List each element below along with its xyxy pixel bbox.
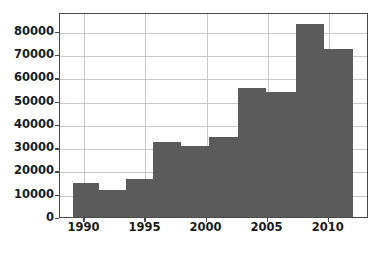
bar bbox=[153, 142, 181, 217]
y-tick-label: 20000 bbox=[14, 166, 54, 178]
bar bbox=[324, 49, 353, 217]
y-tick-mark bbox=[55, 78, 59, 79]
y-tick-label: 0 bbox=[46, 212, 54, 224]
bar bbox=[126, 179, 153, 217]
x-tick-mark bbox=[144, 218, 145, 222]
y-tick-label: 10000 bbox=[14, 189, 54, 201]
y-tick-label: 40000 bbox=[14, 119, 54, 131]
plot-area bbox=[59, 13, 368, 218]
y-tick-mark bbox=[55, 171, 59, 172]
bar bbox=[73, 183, 99, 217]
y-tick-label: 50000 bbox=[14, 96, 54, 108]
y-tick-mark bbox=[55, 125, 59, 126]
y-tick-mark bbox=[55, 195, 59, 196]
y-tick-label: 80000 bbox=[14, 26, 54, 38]
bar bbox=[266, 92, 295, 217]
x-tick-label: 2010 bbox=[312, 222, 344, 234]
x-tick-mark bbox=[206, 218, 207, 222]
x-tick-label: 2005 bbox=[251, 222, 283, 234]
bar bbox=[238, 88, 266, 217]
bar bbox=[296, 24, 324, 217]
figure: 0100002000030000400005000060000700008000… bbox=[0, 0, 388, 257]
x-tick-label: 1995 bbox=[128, 222, 160, 234]
x-tick-mark bbox=[267, 218, 268, 222]
y-tick-label: 70000 bbox=[14, 49, 54, 61]
bar-series bbox=[60, 14, 367, 217]
bar bbox=[99, 190, 126, 217]
y-axis: 0100002000030000400005000060000700008000… bbox=[0, 0, 54, 257]
y-tick-mark bbox=[55, 102, 59, 103]
x-tick-mark bbox=[328, 218, 329, 222]
y-tick-mark bbox=[55, 55, 59, 56]
bar bbox=[209, 137, 238, 217]
x-tick-mark bbox=[83, 218, 84, 222]
x-tick-label: 1990 bbox=[67, 222, 99, 234]
y-tick-label: 60000 bbox=[14, 72, 54, 84]
y-tick-mark bbox=[55, 148, 59, 149]
bar bbox=[181, 146, 209, 217]
y-tick-mark bbox=[55, 32, 59, 33]
y-tick-mark bbox=[55, 218, 59, 219]
x-tick-label: 2000 bbox=[190, 222, 222, 234]
y-tick-label: 30000 bbox=[14, 142, 54, 154]
